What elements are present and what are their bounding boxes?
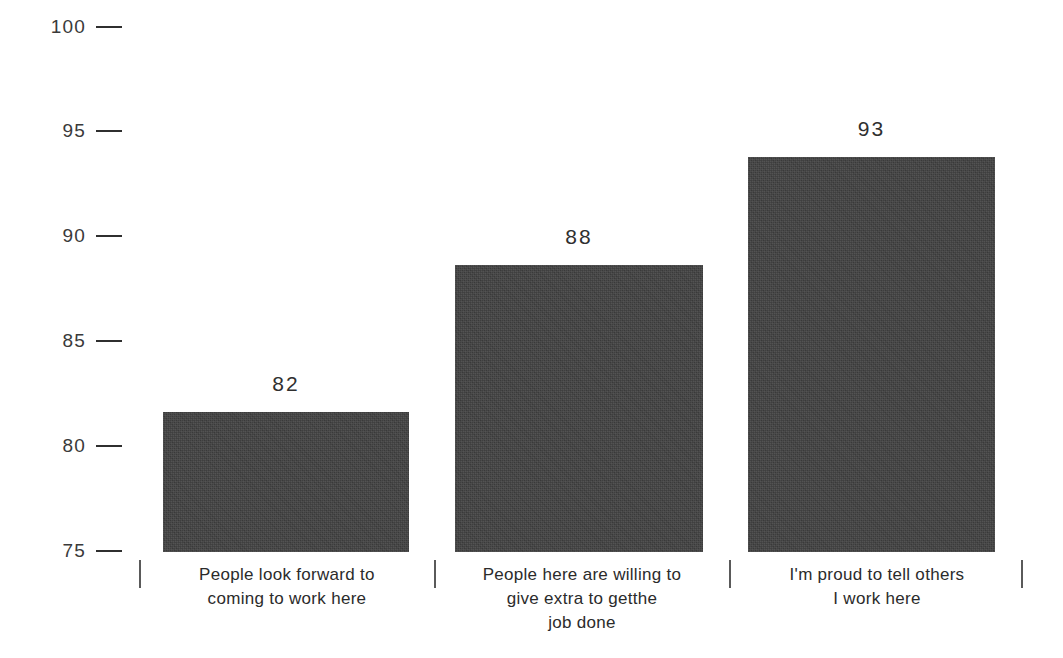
category-separator-tick-4 (1021, 560, 1023, 588)
plot-area: 82 88 93 People look forward to coming t… (0, 0, 1063, 658)
bar-3-value-label: 93 (748, 118, 995, 139)
category-label-3: I'm proud to tell others I work here (737, 563, 1017, 611)
category-separator-tick-1 (139, 560, 141, 588)
category-separator-tick-3 (729, 560, 731, 588)
bar-3[interactable] (748, 157, 995, 552)
category-separator-tick-2 (434, 560, 436, 588)
bar-1-value-label: 82 (163, 373, 409, 394)
bar-1[interactable] (163, 412, 409, 552)
category-label-1: People look forward to coming to work he… (147, 563, 427, 611)
bar-chart: 100 95 90 85 80 75 82 88 (0, 0, 1063, 658)
bar-2[interactable] (455, 265, 703, 552)
category-label-2: People here are willing to give extra to… (442, 563, 722, 635)
bar-2-value-label: 88 (455, 226, 703, 247)
